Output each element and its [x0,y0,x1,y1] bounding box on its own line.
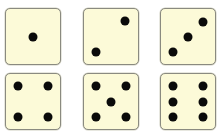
pip-dot-icon [199,112,208,121]
pip-dot-icon [91,82,100,91]
die-face-2 [83,8,139,65]
pip-dot-icon [168,97,177,106]
die-face-4 [5,73,61,130]
pip-dot-icon [44,82,53,91]
pip-dot-icon [13,112,22,121]
pip-dot-icon [122,112,131,121]
pip-dot-icon [168,112,177,121]
pip-dot-icon [91,112,100,121]
pip-dot-icon [199,97,208,106]
pip-dot-icon [13,82,22,91]
pip-dot-icon [184,32,193,41]
pip-dot-icon [199,17,208,26]
die-face-1 [5,8,61,65]
pip-dot-icon [168,48,177,57]
die-face-5 [83,73,139,130]
die-face-6 [160,73,216,130]
pip-dot-icon [29,32,38,41]
pip-dot-icon [44,112,53,121]
pip-dot-icon [199,82,208,91]
pip-dot-icon [121,16,130,25]
pip-dot-icon [168,82,177,91]
pip-dot-icon [107,97,116,106]
pip-dot-icon [122,82,131,91]
die-face-3 [160,8,216,65]
pip-dot-icon [91,47,100,56]
